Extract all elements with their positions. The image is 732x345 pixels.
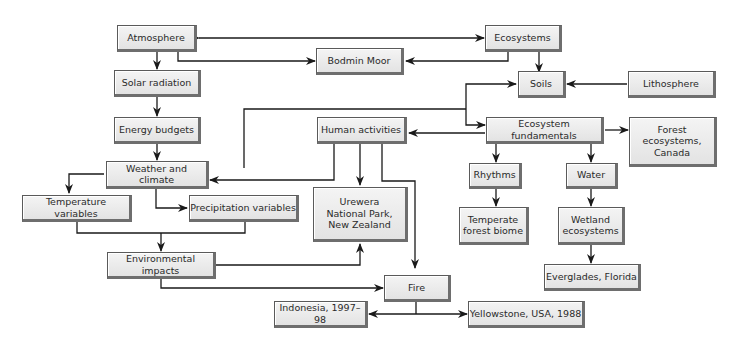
concept-map: Atmosphere Ecosystems Bodmin Moor Solar … xyxy=(0,0,732,345)
node-soils: Soils xyxy=(518,71,566,98)
node-rhythms: Rhythms xyxy=(469,163,522,189)
node-temperate-forest-biome: Temperate forest biome xyxy=(459,207,529,245)
node-human-activities: Human activities xyxy=(317,117,407,144)
node-ecosystem-fundamentals: Ecosystem fundamentals xyxy=(486,117,604,144)
node-temperature-variables: Temperature variables xyxy=(22,195,132,222)
node-lithosphere: Lithosphere xyxy=(628,71,716,98)
node-environmental-impacts: Environmental impacts xyxy=(107,252,216,279)
node-urewera-national-park: Urewera National Park, New Zealand xyxy=(313,187,408,242)
node-weather-and-climate: Weather and climate xyxy=(106,161,209,189)
node-yellowstone: Yellowstone, USA, 1988 xyxy=(468,301,585,328)
node-energy-budgets: Energy budgets xyxy=(114,117,201,144)
node-everglades-florida: Everglades, Florida xyxy=(544,264,641,291)
node-forest-ecosystems-canada: Forest ecosystems, Canada xyxy=(629,117,717,167)
node-fire: Fire xyxy=(384,275,451,302)
node-bodmin-moor: Bodmin Moor xyxy=(316,48,404,75)
node-solar-radiation: Solar radiation xyxy=(114,70,201,97)
node-water: Water xyxy=(566,163,618,189)
node-precipitation-variables: Precipitation variables xyxy=(189,195,299,222)
node-ecosystems: Ecosystems xyxy=(485,25,562,52)
node-wetland-ecosystems: Wetland ecosystems xyxy=(558,207,625,245)
node-atmosphere: Atmosphere xyxy=(117,25,197,52)
node-indonesia: Indonesia, 1997–98 xyxy=(274,301,368,328)
